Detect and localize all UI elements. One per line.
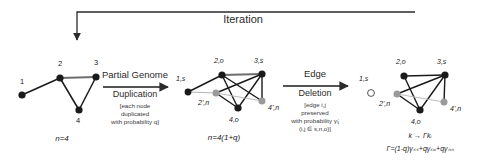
iteration-label: Iteration bbox=[223, 14, 263, 26]
graph-node bbox=[258, 70, 265, 77]
stage3-node-label-4o: 4,o bbox=[411, 118, 421, 125]
stage2-node-label-4n: 4',n bbox=[268, 104, 279, 111]
stage2-node-label-4o: 4,o bbox=[229, 116, 239, 123]
stage1-count-label: n=4 bbox=[55, 135, 69, 143]
stage2-node-label-2n: 2',n bbox=[198, 99, 209, 106]
duplication-arrow-subtitle: Duplication bbox=[113, 90, 158, 99]
stage3-edges bbox=[397, 75, 445, 110]
stage3-node-label-1s: 1,s bbox=[359, 75, 368, 82]
graph-node bbox=[218, 71, 225, 78]
stage2-count-label: n=4(1+q) bbox=[208, 134, 240, 142]
duplication-detail-line-3: with probability q] bbox=[111, 118, 159, 126]
graph-node-duplicate bbox=[441, 99, 448, 106]
stage1-node-label-1: 1 bbox=[20, 78, 24, 86]
stage3-node-label-2n: 2',n bbox=[379, 100, 390, 107]
graph-node bbox=[441, 71, 448, 78]
stage1-node-label-3: 3 bbox=[94, 59, 98, 67]
graph-node bbox=[185, 89, 192, 96]
graph-node-deleted bbox=[368, 90, 375, 97]
graph-node bbox=[75, 106, 82, 113]
graph-node bbox=[416, 106, 423, 113]
graph-node bbox=[56, 74, 63, 81]
edge-deletion-detail-line-2: preserved bbox=[301, 109, 329, 117]
figure-canvas: Iteration 1 2 3 4 n=4 Partial Genome Dup… bbox=[0, 0, 486, 168]
stage3-formula-line-1: k → Γkᵢ bbox=[409, 131, 432, 140]
stage2-node-label-2o: 2,o bbox=[214, 57, 224, 64]
duplication-detail-line-1: [each node bbox=[120, 102, 151, 110]
stage2-node-label-1s: 1,s bbox=[176, 75, 185, 82]
graph-node bbox=[234, 104, 241, 111]
edge-deletion-arrow-subtitle: Deletion bbox=[298, 89, 331, 98]
stage1-node-label-2: 2 bbox=[58, 60, 62, 68]
graph-node-duplicate bbox=[259, 98, 266, 105]
edge-deletion-detail-line-1: [edge i,j bbox=[304, 101, 326, 109]
stage3-formula-line-2: Γ=(1-q)γₛₛ+qγₛₒ+qγₙₙ bbox=[386, 144, 453, 153]
graph-node bbox=[92, 73, 99, 80]
stage3-node-label-4n: 4',n bbox=[450, 105, 461, 112]
graph-node-duplicate bbox=[394, 91, 401, 98]
edge-deletion-detail-line-3: with probability γᵢⱼ bbox=[291, 117, 339, 125]
graph-node bbox=[400, 72, 407, 79]
edge-deletion-arrow-title: Edge bbox=[304, 69, 326, 79]
stage2-node-label-3s: 3,s bbox=[254, 57, 263, 64]
stage1-edges bbox=[22, 77, 96, 110]
graph-node bbox=[18, 91, 25, 98]
stage2-nodes bbox=[185, 70, 266, 111]
stage2-graph bbox=[185, 70, 266, 111]
graph-node-duplicate bbox=[213, 90, 220, 97]
duplication-arrow-title: Partial Genome bbox=[102, 70, 168, 80]
stage3-node-label-2o: 2,o bbox=[396, 58, 406, 65]
stage1-node-label-4: 4 bbox=[76, 117, 80, 125]
duplication-detail-line-2: duplicated bbox=[121, 110, 149, 118]
edge-deletion-detail-line-4: (i,j ∈ s,n,o)] bbox=[299, 125, 331, 133]
stage1-graph bbox=[18, 73, 99, 113]
stage3-node-label-3s: 3,s bbox=[437, 58, 446, 65]
